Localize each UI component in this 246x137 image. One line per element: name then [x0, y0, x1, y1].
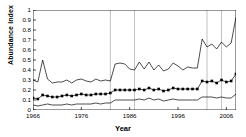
data-point-marker [99, 93, 102, 96]
data-point-marker [51, 96, 54, 99]
data-point-marker [70, 95, 73, 98]
data-point-marker [196, 88, 199, 91]
data-point-marker [56, 96, 59, 99]
data-point-marker [119, 89, 122, 92]
y-axis-tick-labels: 00.10.20.30.40.50.60.70.80.91 [0, 10, 31, 110]
data-point-marker [46, 95, 49, 98]
y-tick-0.8: 0.8 [5, 27, 31, 33]
data-point-marker [172, 87, 175, 90]
data-point-marker [162, 90, 165, 93]
data-point-marker [80, 93, 83, 96]
data-point-marker [225, 81, 228, 84]
x-tick-1976: 1976 [61, 112, 101, 119]
data-point-marker [215, 82, 218, 85]
data-point-marker [95, 93, 98, 96]
data-point-marker [75, 94, 78, 97]
data-point-marker [220, 79, 223, 82]
abundance-index-chart: Abundance index 00.10.20.30.40.50.60.70.… [0, 0, 246, 137]
data-point-marker [128, 89, 131, 92]
data-point-marker [37, 98, 40, 101]
y-tick-0.2: 0.2 [5, 87, 31, 93]
data-point-marker [157, 88, 160, 91]
data-point-marker [167, 89, 170, 92]
x-tick-2006: 2006 [206, 112, 246, 119]
data-point-marker [177, 88, 180, 91]
plot-area [33, 10, 236, 110]
data-point-marker [153, 89, 156, 92]
data-point-marker [33, 97, 34, 100]
data-point-marker [124, 89, 127, 92]
data-point-marker [85, 94, 88, 97]
y-tick-0.4: 0.4 [5, 67, 31, 73]
y-tick-0.6: 0.6 [5, 47, 31, 53]
y-tick-1: 1 [5, 7, 31, 13]
y-tick-0.7: 0.7 [5, 37, 31, 43]
x-axis-label: Year [0, 124, 246, 133]
data-point-marker [182, 88, 185, 91]
data-point-marker [230, 80, 233, 83]
data-point-marker [109, 92, 112, 95]
data-point-marker [206, 81, 209, 84]
data-point-marker [191, 88, 194, 91]
data-point-marker [104, 93, 107, 96]
data-point-marker [114, 89, 117, 92]
y-tick-0.1: 0.1 [5, 97, 31, 103]
data-point-marker [186, 88, 189, 91]
x-tick-1966: 1966 [13, 112, 53, 119]
data-point-marker [138, 88, 141, 91]
data-point-marker [201, 80, 204, 83]
y-tick-0.9: 0.9 [5, 17, 31, 23]
data-point-marker [133, 89, 136, 92]
x-tick-1996: 1996 [158, 112, 198, 119]
data-point-marker [61, 95, 64, 98]
data-point-marker [41, 94, 44, 97]
x-axis-tick-labels: 19661976198619962006 [33, 112, 236, 122]
data-point-marker [66, 94, 69, 97]
data-point-marker [143, 89, 146, 92]
y-tick-0.3: 0.3 [5, 77, 31, 83]
plot-svg [33, 10, 236, 110]
data-point-marker [211, 80, 214, 83]
x-tick-1986: 1986 [110, 112, 150, 119]
data-point-marker [148, 87, 151, 90]
y-tick-0.5: 0.5 [5, 57, 31, 63]
data-point-marker [235, 73, 236, 76]
data-point-marker [90, 94, 93, 97]
